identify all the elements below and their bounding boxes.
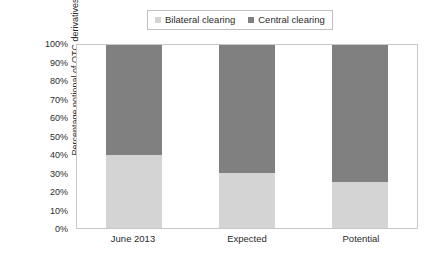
bar-group <box>219 45 275 228</box>
x-axis-tick-labels: June 2013ExpectedPotential <box>76 233 418 253</box>
legend-swatch-central-clearing <box>248 17 254 23</box>
bar-stack <box>106 45 162 228</box>
x-axis-tick-label: Expected <box>227 233 267 244</box>
bar-group <box>106 45 162 228</box>
y-axis-tick-label: 40% <box>50 151 68 160</box>
legend-item-bilateral-clearing: Bilateral clearing <box>155 15 235 25</box>
bar-segment <box>106 155 162 228</box>
y-axis-tick-label: 80% <box>50 77 68 86</box>
y-axis-tick-label: 20% <box>50 188 68 197</box>
y-axis-tick-labels: 0%10%20%30%40%50%60%70%80%90%100% <box>36 44 72 229</box>
bar-segment <box>332 182 388 228</box>
y-axis-tick-label: 50% <box>50 132 68 141</box>
y-axis-title-wrapper: Percentage notional of OTC derivatives <box>18 44 19 229</box>
stacked-bar-chart: Bilateral clearing Central clearing Perc… <box>0 0 433 261</box>
y-axis-tick-label: 10% <box>50 206 68 215</box>
bar-segment <box>332 45 388 182</box>
x-axis-tick-label: June 2013 <box>111 233 155 244</box>
y-axis-tick-label: 90% <box>50 58 68 67</box>
bar-stack <box>219 45 275 228</box>
legend-swatch-bilateral-clearing <box>155 17 161 23</box>
bar-segment <box>219 173 275 228</box>
legend-label-central-clearing: Central clearing <box>258 15 325 25</box>
y-axis-tick-label: 0% <box>55 225 68 234</box>
bars-layer <box>77 45 417 228</box>
bar-segment <box>219 45 275 173</box>
y-axis-tick-label: 60% <box>50 114 68 123</box>
y-axis-tick-label: 30% <box>50 169 68 178</box>
bar-segment <box>106 45 162 155</box>
bar-group <box>332 45 388 228</box>
x-axis-tick-label: Potential <box>343 233 380 244</box>
plot-area <box>76 44 418 229</box>
y-axis-tick-label: 100% <box>45 40 68 49</box>
legend-item-central-clearing: Central clearing <box>248 15 325 25</box>
bar-stack <box>332 45 388 228</box>
y-axis-tick-label: 70% <box>50 95 68 104</box>
chart-legend: Bilateral clearing Central clearing <box>147 10 333 30</box>
legend-label-bilateral-clearing: Bilateral clearing <box>165 15 235 25</box>
